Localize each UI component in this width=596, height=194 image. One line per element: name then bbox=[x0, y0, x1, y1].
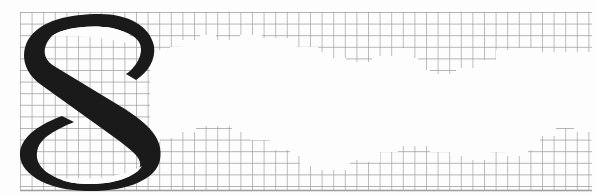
decorative-artwork bbox=[0, 0, 596, 194]
grid-with-letter bbox=[0, 0, 596, 194]
